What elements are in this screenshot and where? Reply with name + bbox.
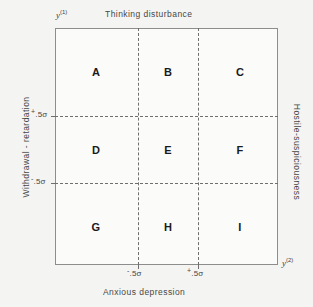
gridline-vertical-minus-half-sigma xyxy=(138,28,139,265)
caption-bottom: Anxious depression xyxy=(103,287,185,297)
caption-top: Thinking disturbance xyxy=(105,9,192,19)
cell-label-c: C xyxy=(236,66,244,78)
tick-mark-y-upper xyxy=(51,116,55,117)
tick-label-x-right-value: .5σ xyxy=(191,269,203,278)
axis-variable-y1: y(1) xyxy=(56,9,67,20)
cell-label-f: F xyxy=(237,144,244,156)
caption-right: Hostile-suspiciousness xyxy=(292,72,302,232)
tick-label-x-right: +.5σ xyxy=(187,267,204,278)
cell-label-h: H xyxy=(164,221,172,233)
cell-label-a: A xyxy=(92,66,100,78)
tick-mark-y-lower xyxy=(51,183,55,184)
cell-label-e: E xyxy=(164,144,172,156)
axis-variable-y1-superscript: (1) xyxy=(60,9,67,15)
tick-label-y-lower-value: .5σ xyxy=(34,177,46,186)
tick-label-y-upper: +.5σ xyxy=(31,108,48,119)
gridline-horizontal-minus-half-sigma xyxy=(55,183,278,184)
partition-diagram: A B C D E F G H I Thinking disturbance A… xyxy=(0,0,313,307)
tick-label-y-upper-value: .5σ xyxy=(35,110,47,119)
cell-label-d: D xyxy=(92,144,100,156)
cell-label-b: B xyxy=(164,66,172,78)
axis-variable-y2: y(2) xyxy=(282,257,293,268)
tick-label-x-left: -.5σ xyxy=(127,267,142,278)
tick-label-x-left-value: .5σ xyxy=(130,269,142,278)
gridline-horizontal-plus-half-sigma xyxy=(55,116,278,117)
caption-left: Withdrawal - retardation xyxy=(21,77,31,217)
cell-label-g: G xyxy=(92,221,101,233)
axis-variable-y2-superscript: (2) xyxy=(286,257,293,263)
tick-label-y-lower: -.5σ xyxy=(31,175,46,186)
cell-label-i: I xyxy=(238,221,241,233)
gridline-vertical-plus-half-sigma xyxy=(198,28,199,265)
